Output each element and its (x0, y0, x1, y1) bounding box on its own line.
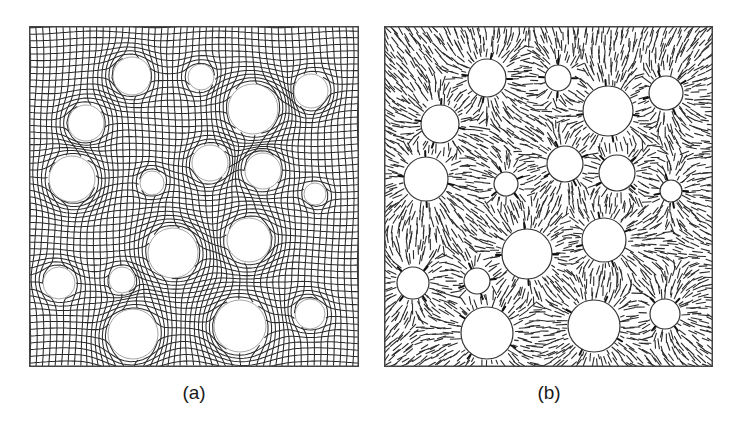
inclusion-circle (304, 183, 326, 205)
inclusion-circle (545, 65, 571, 91)
figure: (a) (b) (0, 0, 742, 424)
inclusion-circle (295, 299, 325, 329)
mesh-diagram (29, 26, 359, 367)
inclusion-circle (583, 86, 633, 136)
inclusion-circle (582, 218, 626, 262)
inclusion-circle (192, 145, 228, 181)
director-field-diagram (384, 26, 713, 367)
inclusion-circle (649, 76, 683, 110)
inclusion-circle (468, 59, 506, 97)
inclusion-circle (568, 300, 620, 352)
inclusion-circle (113, 57, 151, 95)
inclusion-circle (49, 156, 95, 202)
inclusion-circle (43, 267, 75, 299)
panel-a-label: (a) (182, 383, 205, 402)
inclusion-circle (188, 64, 214, 90)
inclusion-circle (148, 228, 198, 278)
inclusion-circle (660, 180, 682, 202)
inclusion-circle (404, 157, 448, 201)
inclusion-circle (68, 105, 104, 141)
inclusion-circle (397, 267, 429, 299)
inclusion-circle (294, 74, 328, 108)
panel-b-label: (b) (537, 383, 560, 402)
inclusion-circle (228, 84, 278, 134)
inclusion-circle (227, 218, 271, 262)
inclusion-circle (547, 146, 583, 182)
panel-a-deformed-mesh (29, 26, 359, 367)
inclusion-circle (461, 307, 513, 359)
inclusion-circle (494, 172, 518, 196)
inclusion-circle (421, 105, 459, 143)
inclusion-circle (650, 299, 680, 329)
inclusion-circle (464, 268, 490, 294)
inclusion-circle (109, 267, 135, 293)
inclusion-circle (140, 171, 164, 195)
inclusion-circle (502, 229, 552, 279)
inclusion-circle (245, 153, 281, 189)
inclusion-circle (214, 300, 266, 352)
inclusion-circle (108, 309, 158, 359)
inclusion-circle (599, 155, 635, 191)
panel-b-director-field (384, 26, 713, 367)
